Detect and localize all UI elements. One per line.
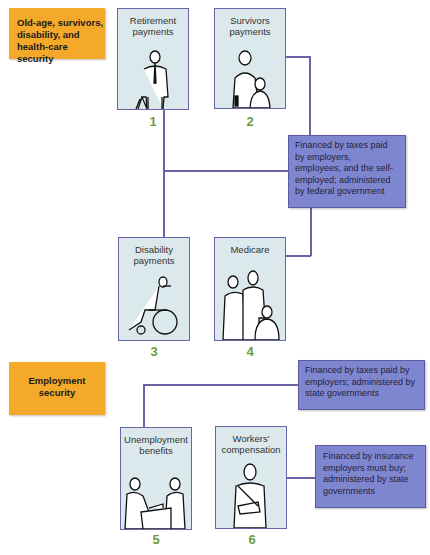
program-number: 2 [240, 114, 260, 129]
financing-state-taxes: Financed by taxes paid by employers; adm… [298, 360, 425, 410]
wheelchair-icon [119, 274, 189, 340]
financing-federal: Financed by taxes paid by employers, emp… [288, 135, 406, 208]
program-label: Retirement payments [118, 15, 188, 37]
program-number: 1 [143, 114, 163, 129]
program-card-survivors: Survivors payments [214, 8, 286, 109]
program-label: Unemployment benefits [121, 434, 191, 456]
woman-and-child-icon [215, 48, 285, 108]
program-number: 3 [144, 344, 164, 359]
counter-service-icon [121, 474, 191, 529]
program-number: 4 [240, 344, 260, 359]
financing-text: Financed by taxes paid by employers; adm… [305, 365, 415, 398]
connector-line [287, 477, 315, 479]
program-label: Medicare [215, 244, 285, 255]
program-card-unemployment: Unemployment benefits [120, 427, 192, 530]
connector-line [143, 384, 145, 427]
elderly-man-icon [118, 39, 188, 109]
connector-line [286, 255, 311, 257]
category-employment-security: Employment security [9, 362, 105, 415]
connector-line [310, 207, 312, 256]
connector-line [163, 109, 165, 237]
connector-line [285, 56, 310, 58]
financing-text: Financed by taxes paid by employers, emp… [295, 140, 393, 196]
category-label: Old-age, survivors, disability, and heal… [17, 17, 103, 64]
program-label: Workers' compensation [216, 433, 286, 455]
program-number: 6 [242, 532, 262, 547]
program-card-medicare: Medicare [214, 237, 286, 341]
medical-staff-icon [215, 268, 285, 340]
category-label: Employment security [28, 375, 85, 398]
program-card-disability: Disability payments [118, 237, 190, 341]
connector-line [163, 170, 288, 172]
category-old-age-security: Old-age, survivors, disability, and heal… [9, 8, 105, 59]
connector-line [143, 384, 298, 386]
program-card-retirement: Retirement payments [117, 8, 189, 110]
arm-sling-icon [216, 462, 286, 528]
financing-insurance: Financed by insurance employers must buy… [315, 445, 426, 508]
program-label: Survivors payments [215, 15, 285, 37]
program-number: 5 [146, 532, 166, 547]
connector-line [309, 56, 311, 135]
financing-text: Financed by insurance employers must buy… [323, 451, 414, 496]
program-label: Disability payments [119, 244, 189, 266]
program-card-workers-comp: Workers' compensation [215, 426, 287, 529]
